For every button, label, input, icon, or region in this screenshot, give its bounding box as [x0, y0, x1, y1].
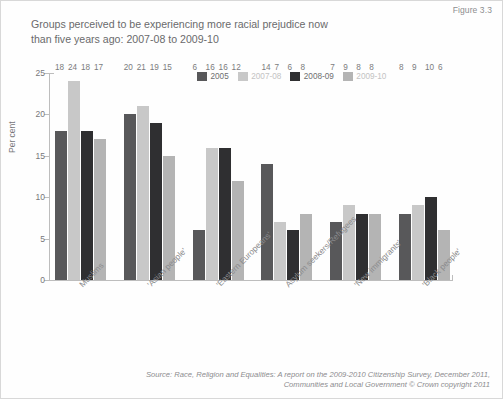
source-note: Source: Race, Religion and Equalities: A… — [1, 370, 490, 390]
bar-value-label: 18 — [55, 63, 64, 72]
y-axis-tick-label: 5 — [40, 234, 45, 244]
bar-value-label: 16 — [219, 63, 228, 72]
bar-group: 18241817 — [55, 73, 106, 280]
bar-value-label: 9 — [412, 63, 417, 72]
bar-wrap: 8 — [356, 73, 368, 280]
bar-wrap: 9 — [412, 73, 424, 280]
bar-wrap: 24 — [68, 73, 80, 280]
bar-value-label: 12 — [232, 63, 241, 72]
bar: 19 — [150, 123, 162, 280]
bar-value-label: 8 — [369, 63, 374, 72]
bar-wrap: 8 — [369, 73, 381, 280]
source-line-1: Source: Race, Religion and Equalities: A… — [1, 370, 490, 380]
chart-title-line2: than five years ago: 2007-08 to 2009-10 — [31, 33, 219, 45]
bar-value-label: 6 — [287, 63, 292, 72]
bar-value-label: 15 — [163, 63, 172, 72]
bar-wrap: 10 — [425, 73, 437, 280]
bar: 6 — [193, 230, 205, 280]
bar-value-label: 24 — [68, 63, 77, 72]
bar-value-label: 8 — [399, 63, 404, 72]
bar-value-label: 8 — [300, 63, 305, 72]
bar-wrap: 14 — [261, 73, 273, 280]
bar: 9 — [412, 205, 424, 280]
x-axis-categories: Muslims'Asian people''Eastern Europeans'… — [49, 282, 453, 342]
source-line-2: Communities and Local Government © Crown… — [1, 380, 490, 390]
bar-value-label: 20 — [124, 63, 133, 72]
bar: 18 — [55, 131, 67, 280]
bar-wrap: 20 — [124, 73, 136, 280]
bar-wrap: 6 — [287, 73, 299, 280]
bar-group: 20211915 — [124, 73, 175, 280]
bar-wrap: 9 — [343, 73, 355, 280]
bar-group: 89106 — [399, 73, 450, 280]
bar: 16 — [219, 148, 231, 280]
bar-wrap: 16 — [206, 73, 218, 280]
bar-wrap: 16 — [219, 73, 231, 280]
bar-wrap: 15 — [163, 73, 175, 280]
chart-title: Groups perceived to be experiencing more… — [31, 17, 431, 46]
bar-value-label: 8 — [356, 63, 361, 72]
bar-value-label: 16 — [206, 63, 215, 72]
bar-value-label: 10 — [425, 63, 434, 72]
bar: 24 — [68, 81, 80, 280]
y-axis-tick-label: 15 — [36, 151, 45, 161]
bar-value-label: 14 — [261, 63, 270, 72]
bar-value-label: 19 — [150, 63, 159, 72]
bar-wrap: 6 — [193, 73, 205, 280]
bar-value-label: 18 — [81, 63, 90, 72]
bar-value-label: 7 — [330, 63, 335, 72]
bar-wrap: 21 — [137, 73, 149, 280]
bar-wrap: 8 — [300, 73, 312, 280]
bar-wrap: 6 — [438, 73, 450, 280]
chart-title-line1: Groups perceived to be experiencing more… — [31, 18, 328, 30]
bar-group: 14768 — [261, 73, 312, 280]
y-axis-tick-label: 10 — [36, 192, 45, 202]
bar: 16 — [206, 148, 218, 280]
figure-number: Figure 3.3 — [453, 5, 492, 15]
x-axis-line — [49, 280, 453, 281]
bar-wrap: 19 — [150, 73, 162, 280]
bar-value-label: 9 — [343, 63, 348, 72]
bar-value-label: 17 — [94, 63, 103, 72]
bar-wrap: 12 — [232, 73, 244, 280]
bar-wrap: 18 — [55, 73, 67, 280]
y-axis-label: Per cent — [7, 121, 17, 153]
bar: 20 — [124, 114, 136, 280]
bar-group: 7988 — [330, 73, 381, 280]
bar-value-label: 21 — [137, 63, 146, 72]
bar-group: 6161612 — [193, 73, 244, 280]
y-axis-tick-label: 20 — [36, 109, 45, 119]
bar-wrap: 7 — [274, 73, 286, 280]
bar-value-label: 6 — [193, 63, 198, 72]
y-axis-tick-label: 25 — [36, 68, 45, 78]
bar: 21 — [137, 106, 149, 280]
bar-wrap: 18 — [81, 73, 93, 280]
bar-value-label: 6 — [438, 63, 443, 72]
bar-wrap: 7 — [330, 73, 342, 280]
bar-value-label: 7 — [274, 63, 279, 72]
bar: 7 — [274, 222, 286, 280]
figure-page: Figure 3.3 Groups perceived to be experi… — [0, 0, 503, 399]
bar-wrap: 8 — [399, 73, 411, 280]
bar: 18 — [81, 131, 93, 280]
y-axis-tick-label: 0 — [40, 275, 45, 285]
bar: 17 — [94, 139, 106, 280]
bar: 14 — [261, 164, 273, 280]
bar-wrap: 17 — [94, 73, 106, 280]
